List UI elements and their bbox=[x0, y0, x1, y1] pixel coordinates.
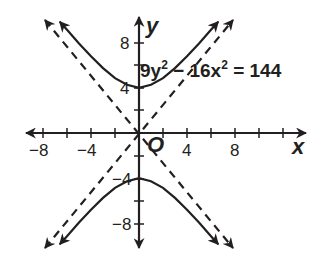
y-axis-label: y bbox=[145, 13, 160, 38]
equation-label: 9y2 − 16x2 = 144 bbox=[140, 58, 282, 81]
x-tick-label: −4 bbox=[77, 141, 96, 160]
y-tick-label: 4 bbox=[120, 79, 129, 98]
origin-label: O bbox=[147, 132, 164, 157]
eq-term-c: = 144 bbox=[228, 60, 282, 81]
x-tick-label: 4 bbox=[182, 141, 191, 160]
x-axis-label: x bbox=[291, 134, 305, 159]
y-tick-label: −8 bbox=[112, 215, 131, 234]
eq-term-a: 9y bbox=[140, 60, 162, 81]
hyperbola-graph: −8 −4 4 8 8 4 −4 −8 x y O 9y2 − 16x2 = 1… bbox=[0, 0, 317, 260]
y-tick-label: −4 bbox=[112, 170, 131, 189]
eq-term-b: − 16x bbox=[168, 60, 222, 81]
x-tick-label: −8 bbox=[29, 141, 48, 160]
y-tick-label: 8 bbox=[120, 34, 129, 53]
x-tick-label: 8 bbox=[230, 141, 239, 160]
